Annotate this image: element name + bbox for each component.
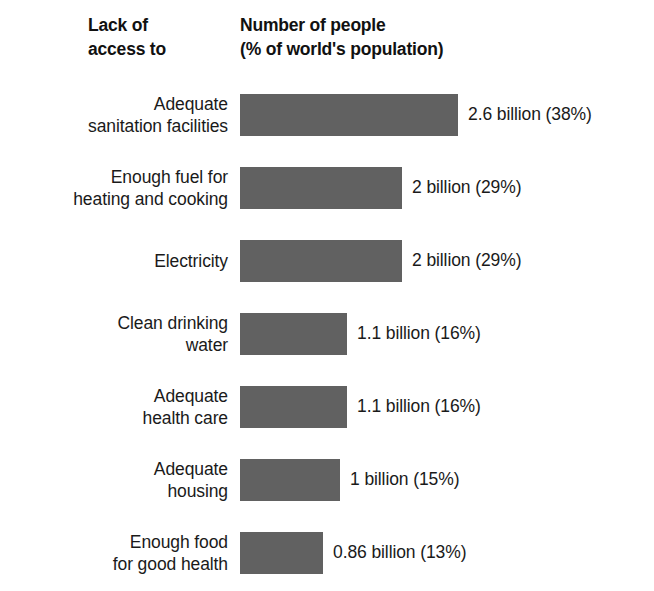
bar-value-label: 0.86 billion (13%) [333, 542, 466, 563]
bar-row-label: Adequate sanitation facilities [38, 92, 228, 137]
bar-chart-figure: Lack of access to Number of people (% of… [0, 0, 654, 591]
bar-row-label: Electricity [38, 249, 228, 271]
category-column-header: Lack of access to [88, 14, 238, 61]
bar-fill [240, 313, 347, 355]
bar-fill [240, 532, 323, 574]
bar-row-label-line2: water [38, 334, 228, 356]
bar-fill [240, 94, 458, 136]
bar-row: Enough fuel for heating and cooking 2 bi… [0, 151, 654, 224]
bar-value-label: 1 billion (15%) [350, 469, 459, 490]
value-column-header-line2: (% of world's population) [240, 38, 570, 62]
bar-row-label-line1: Enough fuel for [38, 165, 228, 187]
bar-fill [240, 167, 402, 209]
bar-row-label-line2: sanitation facilities [38, 115, 228, 137]
bar-and-value: 2 billion (29%) [240, 240, 521, 282]
bar-value-label: 2 billion (29%) [412, 250, 521, 271]
bar-row-label: Clean drinking water [38, 311, 228, 356]
bar-row-label-line1: Adequate [38, 92, 228, 114]
bar-row-label: Adequate health care [38, 384, 228, 429]
bar-row-label-line2: housing [38, 480, 228, 502]
bar-row: Electricity 2 billion (29%) [0, 224, 654, 297]
bar-row-label-line1: Adequate [38, 457, 228, 479]
bar-row: Adequate sanitation facilities 2.6 billi… [0, 78, 654, 151]
bar-row-label-line2: heating and cooking [38, 188, 228, 210]
bar-row: Adequate housing 1 billion (15%) [0, 443, 654, 516]
bar-row: Enough food for good health 0.86 billion… [0, 516, 654, 589]
bar-row-label: Enough food for good health [38, 530, 228, 575]
category-column-header-line2: access to [88, 38, 238, 62]
bar-and-value: 2 billion (29%) [240, 167, 521, 209]
bar-value-label: 1.1 billion (16%) [357, 396, 481, 417]
bar-and-value: 2.6 billion (38%) [240, 94, 592, 136]
bar-row-label-line1: Electricity [38, 249, 228, 271]
bar-value-label: 2.6 billion (38%) [468, 104, 592, 125]
bar-row-label: Enough fuel for heating and cooking [38, 165, 228, 210]
chart-header: Lack of access to Number of people (% of… [0, 0, 654, 78]
bar-row-label-line1: Enough food [38, 530, 228, 552]
bar-row-label-line2: for good health [38, 553, 228, 575]
value-column-header: Number of people (% of world's populatio… [240, 14, 570, 61]
bar-row-label-line1: Clean drinking [38, 311, 228, 333]
bar-row-label: Adequate housing [38, 457, 228, 502]
bar-and-value: 1 billion (15%) [240, 459, 459, 501]
bar-value-label: 1.1 billion (16%) [357, 323, 481, 344]
bar-row-label-line1: Adequate [38, 384, 228, 406]
bar-and-value: 1.1 billion (16%) [240, 313, 481, 355]
bar-and-value: 1.1 billion (16%) [240, 386, 481, 428]
bar-and-value: 0.86 billion (13%) [240, 532, 466, 574]
bar-row-label-line2: health care [38, 407, 228, 429]
bar-row: Adequate health care 1.1 billion (16%) [0, 370, 654, 443]
category-column-header-line1: Lack of [88, 14, 238, 38]
bar-row: Clean drinking water 1.1 billion (16%) [0, 297, 654, 370]
bar-value-label: 2 billion (29%) [412, 177, 521, 198]
bar-fill [240, 240, 402, 282]
bar-rows: Adequate sanitation facilities 2.6 billi… [0, 78, 654, 589]
bar-fill [240, 459, 340, 501]
bar-fill [240, 386, 347, 428]
value-column-header-line1: Number of people [240, 14, 570, 38]
